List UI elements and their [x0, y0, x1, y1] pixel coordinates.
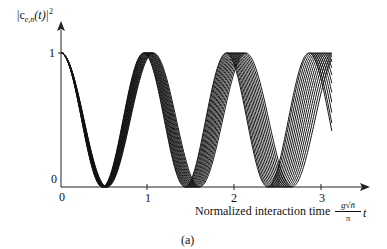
y-axis-arrow-icon [57, 21, 65, 31]
x-tick-label-3: 3 [319, 192, 325, 204]
x-axis-label: Normalized interaction time [195, 205, 330, 217]
curve-family [61, 53, 332, 187]
x-tick-label-0: 0 [59, 191, 65, 203]
x-axis-variable: t [363, 206, 366, 221]
fraction-denominator: π [335, 212, 361, 223]
figure-caption: (a) [181, 234, 194, 246]
x-axis-normalization-fraction: g√n̄ π [335, 200, 361, 223]
y-axis-label: |ce,n(t)|2 [17, 8, 53, 24]
fraction-numerator: g√n̄ [335, 200, 361, 212]
x-tick-label-2: 2 [231, 192, 237, 204]
x-tick-label-1: 1 [145, 192, 151, 204]
y-tick-label-1: 1 [49, 47, 55, 59]
y-tick-label-0: 0 [51, 173, 57, 185]
